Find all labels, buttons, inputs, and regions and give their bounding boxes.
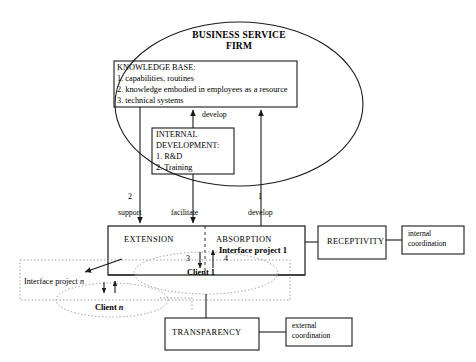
develop-flow-label: develop <box>248 208 273 217</box>
absorption-label: ABSORPTION <box>216 235 272 245</box>
diagram-canvas: BUSINESS SERVICE FIRM KNOWLEDGE BASE: 1.… <box>0 0 476 362</box>
external-coordination-line1: external <box>292 322 316 331</box>
interface-project-n-suffix: n <box>80 277 84 286</box>
knowledge-base-item-2: 2. knowledge embodied in employees as a … <box>117 85 288 95</box>
internal-coordination-line2: coordination <box>408 240 446 249</box>
support-flow-number: 2 <box>128 192 132 201</box>
internal-development-item-2: 2. Training <box>156 163 192 173</box>
extension-label: EXTENSION <box>124 235 174 245</box>
internal-development-heading-line1: INTERNAL <box>156 130 197 140</box>
client-n-suffix: n <box>119 303 124 312</box>
internal-development-item-1: 1. R&D <box>156 152 182 162</box>
client-n-prefix: Client <box>95 303 119 312</box>
receptivity-label: RECEPTIVITY <box>327 237 384 247</box>
interface-project-n-label: Interface project n <box>24 277 84 287</box>
client-1-label: Client 1 <box>187 268 215 278</box>
arrow-three-label: 3 <box>186 254 190 263</box>
develop-internal-label: develop <box>202 110 227 119</box>
internal-development-heading-line2: DEVELOPMENT: <box>156 141 219 151</box>
facilitate-flow-label: facilitate <box>171 208 198 217</box>
knowledge-base-item-3: 3. technical systems <box>117 96 184 106</box>
arrow-four-label: 4 <box>224 254 228 263</box>
diagram-vector-layer <box>0 0 476 362</box>
develop-flow-number: 1 <box>258 192 262 201</box>
firm-title-line2: FIRM <box>89 41 389 52</box>
firm-title-line1: BUSINESS SERVICE <box>89 30 389 41</box>
external-coordination-line2: coordination <box>292 332 330 341</box>
extension-to-interface-n-arrow <box>85 259 122 272</box>
client-n-label: Client n <box>95 303 123 313</box>
knowledge-base-heading: KNOWLEDGE BASE: <box>117 63 196 73</box>
support-flow-label: support <box>118 208 141 217</box>
interface-project-n-prefix: Interface project <box>24 277 80 286</box>
interface-project-1-label: Interface project 1 <box>219 245 287 255</box>
internal-coordination-line1: internal <box>408 230 431 239</box>
transparency-label: TRANSPARENCY <box>172 328 241 338</box>
knowledge-base-item-1: 1. capabilities, routines <box>117 74 194 84</box>
